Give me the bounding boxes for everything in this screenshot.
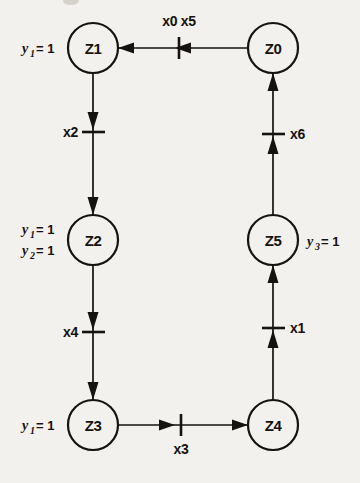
output-eq-z2-y1: = 1 bbox=[36, 222, 54, 237]
edge-z1-to-z2 bbox=[82, 73, 105, 215]
output-var-z2-y2: y bbox=[20, 243, 29, 258]
transition-label-x2: x2 bbox=[63, 124, 78, 140]
output-var-z5: y bbox=[305, 234, 314, 249]
arrowhead-mid-z0-z1 bbox=[175, 43, 191, 54]
arrowhead-into-z1 bbox=[118, 43, 134, 54]
state-node-z4[interactable]: Z4 bbox=[248, 400, 298, 450]
arrowhead-into-z4 bbox=[232, 420, 248, 431]
state-node-z0[interactable]: Z0 bbox=[248, 23, 298, 73]
transition-label-x0x5: x0 x5 bbox=[162, 13, 196, 29]
arrowhead-into-z2 bbox=[88, 197, 99, 215]
state-node-z5[interactable]: Z5 bbox=[248, 215, 298, 265]
state-label-z3: Z3 bbox=[85, 417, 102, 434]
edge-z3-to-z4 bbox=[118, 414, 248, 436]
output-var-z3: y bbox=[20, 418, 29, 433]
output-sub-z2-y1: 1 bbox=[30, 229, 35, 240]
output-label-z1: y 1 = 1 bbox=[20, 41, 54, 59]
edge-z5-to-z0 bbox=[262, 73, 285, 215]
state-label-z2: Z2 bbox=[85, 232, 102, 249]
state-transition-diagram: Z1 Z0 Z2 Z5 Z3 Z4 x0 x5 x2 x4 x3 x1 x6 bbox=[0, 0, 360, 483]
output-eq-z2-y2: = 1 bbox=[36, 243, 54, 258]
output-var-z2-y1: y bbox=[20, 222, 29, 237]
state-label-z5: Z5 bbox=[265, 232, 282, 249]
output-label-z5: y 3 = 1 bbox=[305, 234, 339, 252]
arrowhead-into-z3 bbox=[88, 382, 99, 400]
edge-z2-to-z3 bbox=[82, 265, 105, 400]
output-var-z1: y bbox=[20, 41, 29, 56]
transition-label-x3: x3 bbox=[174, 441, 189, 457]
transition-label-x1: x1 bbox=[290, 320, 305, 336]
arrowhead-mid-z3-z4 bbox=[159, 420, 175, 431]
output-eq-z1: = 1 bbox=[36, 41, 54, 56]
output-sub-z5: 3 bbox=[314, 241, 320, 252]
transition-label-x4: x4 bbox=[63, 324, 78, 340]
output-label-z3: y 1 = 1 bbox=[20, 418, 54, 436]
transition-label-x6: x6 bbox=[290, 126, 305, 142]
state-node-z3[interactable]: Z3 bbox=[68, 400, 118, 450]
arrowhead-into-z5 bbox=[268, 265, 279, 283]
state-label-z0: Z0 bbox=[265, 40, 282, 57]
output-eq-z3: = 1 bbox=[36, 418, 54, 433]
edge-z0-to-z1 bbox=[118, 37, 248, 59]
state-node-z2[interactable]: Z2 bbox=[68, 215, 118, 265]
edge-z4-to-z5 bbox=[262, 265, 285, 400]
output-sub-z1: 1 bbox=[30, 48, 35, 59]
arrowhead-mid-z1-z2 bbox=[88, 112, 99, 130]
output-label-z2-y2: y 2 = 1 bbox=[20, 243, 54, 261]
state-label-z4: Z4 bbox=[265, 417, 283, 434]
output-sub-z3: 1 bbox=[30, 425, 35, 436]
state-label-z1: Z1 bbox=[85, 40, 102, 57]
arrowhead-mid-z2-z3 bbox=[88, 312, 99, 330]
arrowhead-mid-z5-z0 bbox=[268, 136, 279, 154]
output-sub-z2-y2: 2 bbox=[29, 250, 35, 261]
arrowhead-into-z0 bbox=[268, 73, 279, 91]
state-node-z1[interactable]: Z1 bbox=[68, 23, 118, 73]
diagram-page: Z1 Z0 Z2 Z5 Z3 Z4 x0 x5 x2 x4 x3 x1 x6 bbox=[0, 0, 360, 483]
output-label-z2-y1: y 1 = 1 bbox=[20, 222, 54, 240]
arrowhead-mid-z4-z5 bbox=[268, 330, 279, 348]
output-eq-z5: = 1 bbox=[321, 234, 339, 249]
